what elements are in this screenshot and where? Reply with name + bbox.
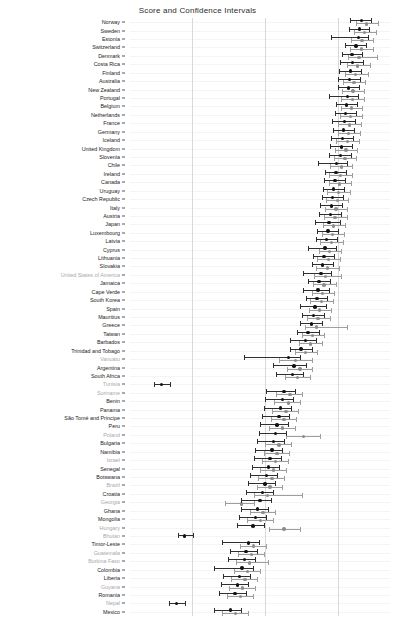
data-point (315, 297, 318, 300)
confidence-interval-cap (284, 439, 285, 444)
data-point (332, 224, 335, 227)
confidence-interval-cap (356, 111, 357, 116)
data-point (312, 314, 315, 317)
y-axis-label: Trinidad and Tobago (71, 348, 120, 354)
data-point (304, 351, 307, 354)
confidence-interval-cap (330, 144, 331, 149)
confidence-interval-cap (241, 507, 242, 512)
y-axis-label: Luxembourg (90, 230, 120, 236)
data-point (319, 272, 322, 275)
y-axis-tick (122, 190, 125, 191)
confidence-interval-bar (250, 475, 277, 476)
data-point (243, 558, 246, 561)
y-axis-tick (122, 451, 125, 452)
confidence-interval-cap (273, 490, 274, 495)
confidence-interval-cap (332, 119, 333, 124)
data-point (324, 275, 327, 278)
confidence-interval-cap (347, 161, 348, 166)
confidence-interval-cap (282, 448, 283, 453)
y-axis-label: South Korea (90, 297, 120, 303)
y-axis-tick (122, 47, 125, 48)
y-axis-tick (122, 418, 125, 419)
confidence-interval-cap (308, 246, 309, 251)
confidence-interval-cap (264, 406, 265, 411)
confidence-interval-cap (354, 128, 355, 133)
confidence-interval-cap (257, 439, 258, 444)
confidence-interval-bar (248, 483, 275, 484)
confidence-interval-cap (303, 372, 304, 377)
confidence-interval-cap (363, 60, 364, 65)
data-point (270, 448, 273, 451)
confidence-interval-bar (331, 37, 368, 38)
y-axis-tick (122, 64, 125, 65)
y-axis-label: Suriname (97, 390, 120, 396)
confidence-interval-cap (350, 18, 351, 23)
y-axis-tick (122, 485, 125, 486)
y-axis-tick (122, 22, 125, 23)
y-axis-label: Argentina (97, 365, 120, 371)
data-point (299, 347, 302, 350)
confidence-interval-bar (252, 467, 279, 468)
data-point (238, 575, 241, 578)
y-axis-label: Greece (102, 322, 120, 328)
data-point (160, 383, 163, 386)
data-point (268, 457, 271, 460)
confidence-interval-cap (170, 382, 171, 387)
y-axis-tick (122, 148, 125, 149)
y-axis-label: Sweden (101, 28, 120, 34)
confidence-interval-bar (237, 525, 264, 526)
confidence-interval-cap (322, 195, 323, 200)
confidence-interval-cap (317, 229, 318, 234)
confidence-interval-cap (331, 271, 332, 276)
y-axis-label: Hungary (100, 525, 120, 531)
confidence-interval-cap (327, 296, 328, 301)
data-point (358, 27, 361, 30)
y-axis-tick (122, 131, 125, 132)
confidence-interval-cap (331, 35, 332, 40)
data-point (252, 544, 255, 547)
confidence-interval-cap (250, 473, 251, 478)
y-axis-tick (122, 510, 125, 511)
confidence-interval-cap (312, 262, 313, 267)
y-axis-label: Burkina Faso (88, 558, 120, 564)
confidence-interval-cap (333, 128, 334, 133)
confidence-interval-cap (178, 533, 179, 538)
confidence-interval-cap (336, 246, 337, 251)
data-point (363, 31, 366, 34)
confidence-interval-cap (275, 481, 276, 486)
confidence-interval-cap (355, 119, 356, 124)
confidence-interval-cap (248, 481, 249, 486)
confidence-interval-cap (281, 456, 282, 461)
confidence-interval-cap (252, 465, 253, 470)
confidence-interval-cap (260, 422, 261, 427)
confidence-interval-cap (221, 582, 222, 587)
data-point (350, 53, 353, 56)
confidence-interval-cap (241, 608, 242, 613)
y-axis-tick (122, 81, 125, 82)
confidence-interval-cap (255, 448, 256, 453)
confidence-interval-bar (214, 610, 241, 611)
confidence-interval-cap (322, 321, 323, 326)
confidence-interval-cap (331, 136, 332, 141)
confidence-interval-cap (185, 601, 186, 606)
data-point (342, 128, 345, 131)
confidence-interval-cap (306, 296, 307, 301)
confidence-interval-bar (348, 57, 377, 58)
data-point (268, 485, 271, 488)
confidence-interval-cap (248, 611, 249, 616)
y-axis-label: Benin (106, 398, 120, 404)
y-axis-tick (122, 342, 125, 343)
data-point (292, 364, 295, 367)
y-axis-tick (122, 552, 125, 553)
confidence-interval-cap (312, 347, 313, 352)
confidence-interval-cap (362, 52, 363, 57)
y-axis-label: Netherlands (91, 112, 120, 118)
confidence-interval-bar (239, 517, 266, 518)
y-axis-tick (122, 165, 125, 166)
confidence-interval-cap (303, 288, 304, 293)
confidence-interval-bar (308, 248, 335, 249)
data-point (329, 213, 332, 216)
confidence-interval-cap (329, 153, 330, 158)
data-point (277, 415, 280, 418)
data-point (330, 204, 333, 207)
